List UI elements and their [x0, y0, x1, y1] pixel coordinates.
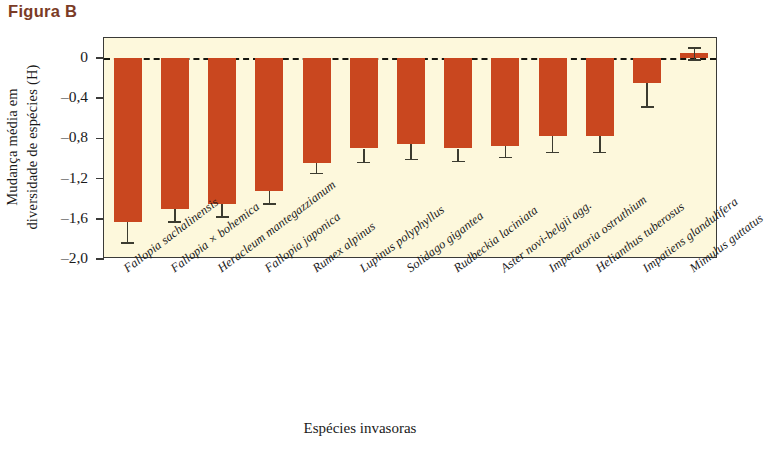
error-bar	[269, 191, 271, 203]
error-bar	[646, 83, 648, 106]
error-bar-cap	[593, 152, 606, 154]
y-axis-tick	[96, 57, 104, 59]
x-axis-title: Espécies invasoras	[0, 420, 720, 437]
error-bar	[694, 47, 696, 59]
bar	[114, 58, 142, 222]
bar	[444, 58, 472, 148]
bar	[491, 58, 519, 146]
y-axis-tick-label: –0,4	[61, 88, 88, 106]
error-bar-cap	[357, 162, 370, 164]
error-bar	[505, 146, 507, 156]
error-bar	[316, 163, 318, 173]
error-bar-cap	[688, 59, 701, 61]
x-axis-tick-labels: Fallopia sachalinensisFallopia × bohemic…	[0, 258, 720, 408]
error-bar-cap	[546, 152, 559, 154]
y-axis-tick	[96, 97, 104, 99]
error-bar-cap	[263, 203, 276, 205]
error-bar	[410, 144, 412, 158]
error-bar	[363, 149, 365, 162]
y-axis-tick	[96, 138, 104, 140]
y-axis-tick-labels: 0–0,4–0,8–1,2–1,6–2,0	[0, 37, 96, 258]
error-bar	[457, 149, 459, 161]
bar	[539, 58, 567, 136]
bar	[397, 58, 425, 144]
bar	[303, 58, 331, 162]
error-bar-cap	[310, 173, 323, 175]
bar	[633, 58, 661, 83]
error-bar	[127, 222, 129, 242]
bar	[586, 58, 614, 136]
y-axis-tick-label: 0	[80, 48, 88, 66]
figure-label: Figura B	[8, 2, 77, 21]
error-bar-cap	[216, 216, 229, 218]
y-axis-tick-label: –1,2	[61, 169, 88, 187]
error-bar	[552, 136, 554, 151]
bar	[255, 58, 283, 191]
error-bar	[174, 209, 176, 221]
y-axis-tick	[96, 178, 104, 180]
y-axis-tick	[96, 218, 104, 220]
error-bar-cap	[405, 159, 418, 161]
y-axis-tick-label: –1,6	[61, 209, 88, 227]
bar	[208, 58, 236, 204]
bar	[161, 58, 189, 209]
error-bar-cap	[641, 106, 654, 108]
error-bar-cap	[499, 157, 512, 159]
bar	[350, 58, 378, 148]
y-axis-tick-label: –0,8	[61, 128, 88, 146]
error-bar-cap	[688, 47, 701, 49]
error-bar-cap	[452, 161, 465, 163]
error-bar	[599, 136, 601, 151]
error-bar-cap	[121, 242, 134, 244]
